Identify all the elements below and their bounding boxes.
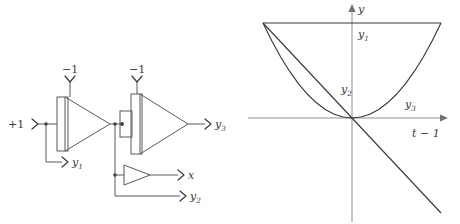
figure-root: +1 −1 −1 y1 y3 x y2 y t − 1 y1 y2 y3	[0, 0, 460, 224]
output-x-arrow	[178, 170, 184, 180]
curve-label-y3: y3	[404, 98, 416, 113]
amplifier-x[interactable]	[124, 165, 150, 185]
integrator-2-input-node	[120, 122, 124, 126]
ic1-label: −1	[62, 63, 78, 76]
curve-label-y2: y2	[340, 83, 352, 98]
integrator-1-triangle	[65, 97, 110, 151]
input-plus1-label: +1	[8, 118, 24, 131]
input-plus1-arrow	[32, 119, 38, 129]
output-x-label: x	[188, 169, 195, 182]
output-y3-label: y3	[214, 118, 226, 133]
plot-panel: y t − 1 y1 y2 y3	[248, 3, 448, 222]
x-axis-label: t − 1	[412, 127, 440, 140]
ic1-arrow-down	[65, 76, 75, 82]
wire-node-a-to-y1	[46, 124, 62, 162]
integrator-1-bar	[57, 97, 68, 151]
y-axis-arrowhead	[348, 4, 355, 12]
integrator-1[interactable]	[57, 97, 110, 151]
integrator-2-triangle	[140, 94, 188, 154]
amplifier-x-triangle	[124, 165, 150, 185]
ic2-label: −1	[129, 63, 145, 76]
output-y2-label: y2	[189, 190, 201, 205]
integrator-2[interactable]	[120, 94, 188, 154]
ic2-arrow-down	[132, 76, 142, 82]
output-y3-arrow	[205, 119, 211, 129]
y-axis-label: y	[357, 3, 365, 16]
circuit-diagram-panel: +1 −1 −1 y1 y3 x y2 y t − 1 y1 y2 y3	[0, 0, 460, 224]
circuit-wiring	[32, 76, 211, 201]
curve-label-y1: y1	[357, 28, 369, 43]
x-axis-arrowhead	[440, 114, 448, 121]
output-y1-arrow	[62, 157, 68, 167]
output-y1-label: y1	[71, 156, 83, 171]
output-y2-arrow	[180, 191, 186, 201]
